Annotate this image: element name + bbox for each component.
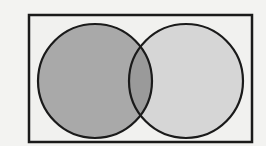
venn-diagram <box>0 0 266 146</box>
